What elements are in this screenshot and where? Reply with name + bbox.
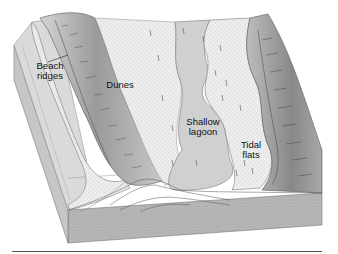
label-tidal-flats: Tidal flats — [238, 140, 264, 160]
label-shallow-lagoon: Shallow lagoon — [183, 117, 223, 137]
label-dunes: Dunes — [104, 80, 136, 90]
bottom-divider-rule — [12, 251, 322, 252]
label-beach-ridges: Beach ridges — [30, 61, 70, 81]
block-front-face — [68, 193, 322, 243]
barrier-island-block-diagram — [0, 0, 338, 254]
